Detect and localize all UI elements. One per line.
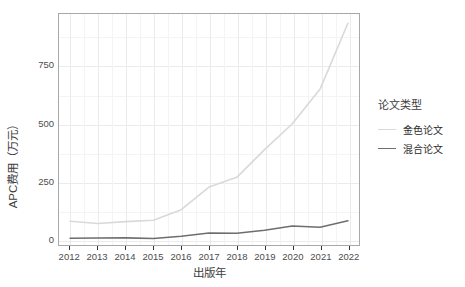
x-tick-label: 2022 [329, 251, 369, 262]
legend-item[interactable]: 金色论文 [378, 121, 464, 138]
legend: 论文类型 金色论文混合论文 [378, 96, 464, 159]
legend-item-label: 金色论文 [403, 122, 443, 137]
y-tick-label: 750 [20, 60, 54, 70]
legend-title: 论文类型 [378, 96, 464, 112]
x-tick-mark [321, 246, 322, 250]
x-tick-mark [237, 246, 238, 250]
x-tick-mark [265, 246, 266, 250]
legend-items: 金色论文混合论文 [378, 121, 464, 157]
y-tick-label: 0 [20, 235, 54, 245]
plot-panel [58, 13, 360, 246]
series-lines [59, 14, 359, 245]
y-tick-label: 500 [20, 119, 54, 129]
chart-figure: APC费用（万元） 0250500750 2012201320142015201… [0, 0, 465, 287]
x-tick-mark [125, 246, 126, 250]
legend-line-icon [378, 142, 396, 156]
legend-line-icon [378, 123, 396, 137]
legend-item[interactable]: 混合论文 [378, 140, 464, 157]
x-tick-mark [69, 246, 70, 250]
y-axis-ticks: 0250500750 [20, 0, 54, 287]
x-tick-mark [349, 246, 350, 250]
series-line [70, 221, 348, 239]
x-tick-mark [181, 246, 182, 250]
legend-item-label: 混合论文 [403, 141, 443, 156]
series-line [70, 23, 348, 223]
x-tick-mark [153, 246, 154, 250]
x-axis-ticks: 2012201320142015201620172018201920202021… [58, 246, 360, 266]
x-tick-mark [209, 246, 210, 250]
x-tick-mark [293, 246, 294, 250]
x-tick-mark [97, 246, 98, 250]
x-axis-title: 出版年 [58, 264, 360, 280]
y-tick-label: 250 [20, 177, 54, 187]
